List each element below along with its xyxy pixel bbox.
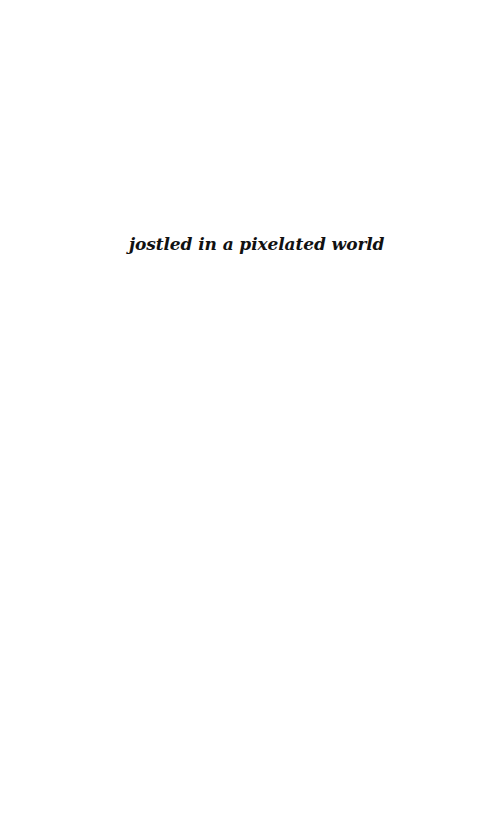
epigraph-text: jostled in a pixelated world — [129, 234, 384, 254]
document-page: jostled in a pixelated world — [0, 0, 491, 817]
